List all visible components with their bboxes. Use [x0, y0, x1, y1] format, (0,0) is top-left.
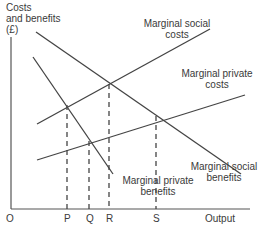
- mpb-label-line2: benefits: [116, 186, 200, 197]
- msc-label: Marginal social costs: [137, 18, 217, 40]
- tick-s: S: [153, 213, 160, 224]
- tick-p: P: [64, 213, 71, 224]
- y-axis-label-line3: (£): [6, 24, 18, 35]
- x-axis-label: Output: [205, 213, 235, 224]
- mpb-line: [33, 57, 113, 174]
- msb-label-line1: Marginal social: [188, 161, 260, 172]
- tick-r: R: [106, 213, 113, 224]
- mpb-label: Marginal private benefits: [116, 175, 200, 197]
- mpb-label-line1: Marginal private: [116, 175, 200, 186]
- msc-label-line1: Marginal social: [137, 18, 217, 29]
- mpc-label: Marginal private costs: [175, 68, 259, 90]
- mpc-label-line1: Marginal private: [175, 68, 259, 79]
- tick-q: Q: [86, 213, 94, 224]
- y-axis-label-line1: Costs: [6, 2, 32, 13]
- msc-label-line2: costs: [137, 29, 217, 40]
- origin-label: O: [6, 213, 14, 224]
- mpc-label-line2: costs: [175, 79, 259, 90]
- y-axis-label-line2: and benefits: [6, 13, 61, 24]
